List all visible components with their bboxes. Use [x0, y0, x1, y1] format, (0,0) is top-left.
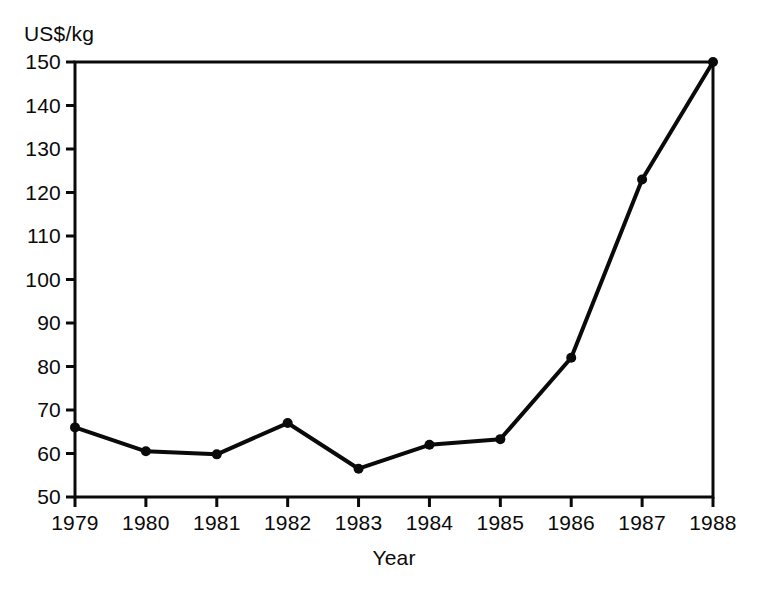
y-axis-label-100: 100: [3, 268, 61, 292]
y-axis-label-150: 150: [3, 50, 61, 74]
data-point-1986: [566, 353, 576, 363]
data-point-1981: [212, 449, 222, 459]
y-axis-label-50: 50: [3, 485, 61, 509]
line-chart: US$/kg 5060708090100110120130140150 1979…: [0, 0, 759, 590]
data-line: [75, 62, 713, 469]
data-point-1980: [141, 446, 151, 456]
data-point-1979: [70, 422, 80, 432]
y-axis-label-60: 60: [3, 442, 61, 466]
data-point-1988: [708, 57, 718, 67]
y-axis-label-110: 110: [3, 224, 61, 248]
data-point-1985: [495, 434, 505, 444]
data-point-1982: [283, 418, 293, 428]
y-axis-label-70: 70: [3, 398, 61, 422]
x-axis-label-1988: 1988: [668, 511, 758, 535]
data-point-1987: [637, 174, 647, 184]
y-axis-label-80: 80: [3, 355, 61, 379]
data-point-1983: [354, 464, 364, 474]
data-point-1984: [424, 440, 434, 450]
plot-frame: [75, 62, 713, 497]
y-axis-label-130: 130: [3, 137, 61, 161]
y-axis-label-120: 120: [3, 181, 61, 205]
chart-plot-area: [0, 0, 759, 590]
y-axis-label-140: 140: [3, 94, 61, 118]
x-axis-title: Year: [294, 546, 494, 570]
y-axis-label-90: 90: [3, 311, 61, 335]
